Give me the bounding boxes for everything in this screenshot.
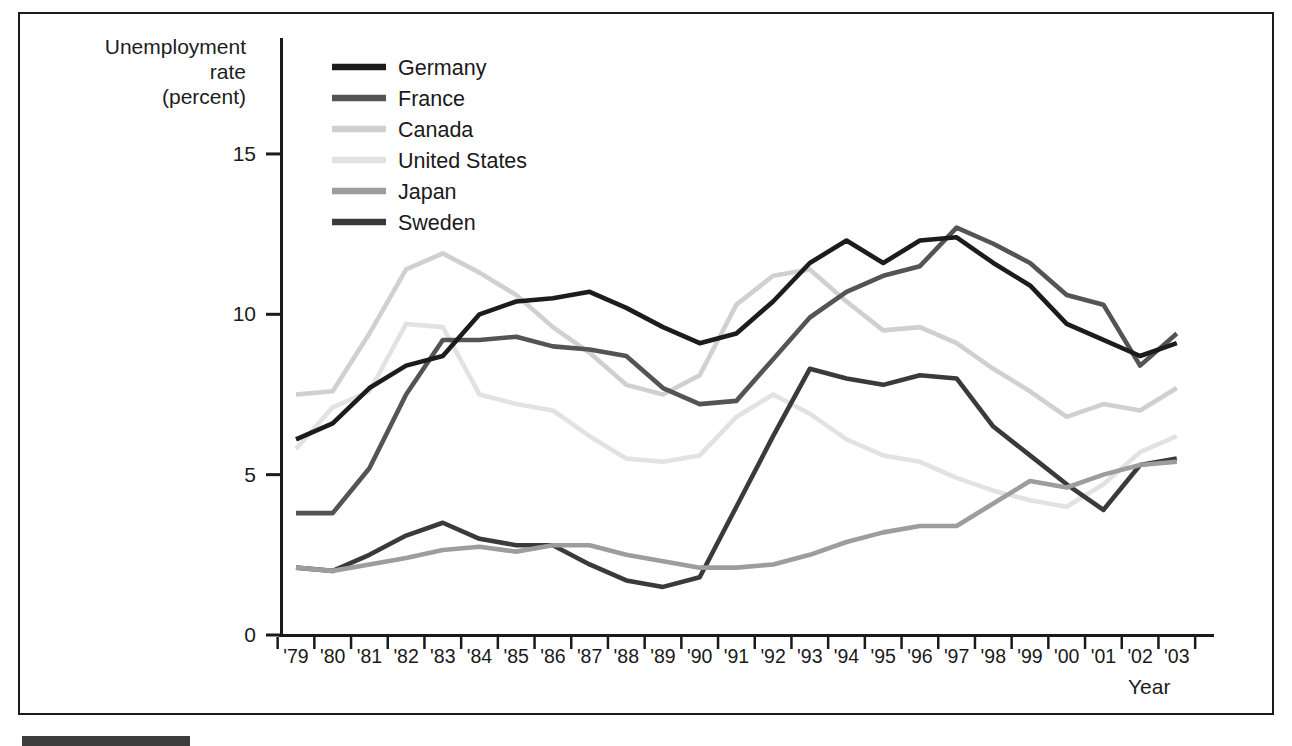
x-tick-label: '79 [283,645,308,667]
x-tick-label: '87 [577,645,602,667]
x-tick-label: '02 [1127,645,1152,667]
x-tick-label: '81 [357,645,382,667]
legend-item-united-states: United States [332,149,527,173]
y-tick-label: 15 [233,142,256,165]
legend-label: Germany [398,56,487,80]
legend-item-sweden: Sweden [332,211,476,235]
x-tick-label: '80 [320,645,346,667]
legend-label: France [398,87,465,111]
series-line-united-states [296,324,1177,507]
x-tick-label: '01 [1091,645,1116,667]
legend-label: Sweden [398,211,476,235]
x-tick-label: '93 [797,645,822,667]
x-tick-label: '00 [1054,645,1080,667]
x-tick-label: '88 [614,645,639,667]
y-tick-label: 0 [244,623,256,646]
legend-label: Japan [398,180,457,204]
x-tick-label: '96 [907,645,932,667]
x-tick-label: '86 [540,645,565,667]
legend-item-germany: Germany [332,56,487,80]
x-tick-label: '97 [944,645,969,667]
series-line-germany [296,237,1177,439]
axes-layer: 051015'79'80'81'82'83'84'85'86'87'88'89'… [233,38,1214,667]
x-tick-label: '82 [393,645,418,667]
y-tick-label: 5 [244,463,256,486]
x-tick-label: '95 [870,645,896,667]
series-layer [296,228,1177,587]
legend-item-france: France [332,87,465,111]
y-tick-label: 10 [233,302,256,325]
x-axis-title: Year [1128,675,1170,699]
series-line-japan [296,462,1177,571]
x-tick-label: '94 [834,645,860,667]
x-tick-label: '84 [467,645,493,667]
legend: GermanyFranceCanadaUnited StatesJapanSwe… [332,56,527,235]
legend-label: Canada [398,118,473,142]
x-tick-label: '98 [981,645,1006,667]
x-tick-label: '85 [503,645,529,667]
page-section-bar [22,736,190,746]
legend-label: United States [398,149,527,173]
x-tick-label: '90 [687,645,713,667]
x-tick-label: '92 [760,645,785,667]
legend-item-canada: Canada [332,118,473,142]
x-tick-label: '83 [430,645,455,667]
x-tick-label: '03 [1164,645,1189,667]
x-tick-label: '89 [650,645,675,667]
series-line-france [296,228,1177,513]
x-tick-label: '91 [724,645,749,667]
x-tick-label: '99 [1017,645,1042,667]
legend-item-japan: Japan [332,180,457,204]
